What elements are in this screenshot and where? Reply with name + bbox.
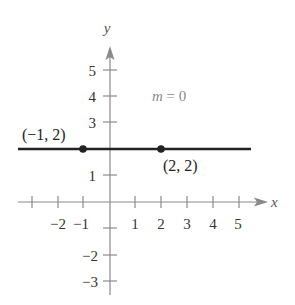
y-tick-label: −2 xyxy=(82,248,98,264)
point-a xyxy=(79,145,87,153)
y-tick-label: 4 xyxy=(89,89,97,105)
x-axis-label: x xyxy=(270,194,278,210)
x-tick-label: 2 xyxy=(157,216,165,232)
y-tick-label: 3 xyxy=(89,115,97,131)
slope-label: m = 0 xyxy=(152,88,186,104)
y-axis: y 5 4 3 1 −2 −3 xyxy=(82,20,117,295)
y-tick-label: 5 xyxy=(89,63,97,79)
x-tick-label: 5 xyxy=(234,216,242,232)
x-tick-label: 1 xyxy=(131,216,139,232)
y-tick-label: −3 xyxy=(82,274,98,290)
x-tick-label: 4 xyxy=(209,216,217,232)
x-tick-label: −1 xyxy=(73,216,89,232)
x-tick-label: −2 xyxy=(50,216,66,232)
x-axis: x −2 −1 1 2 3 4 5 xyxy=(18,194,278,232)
point-a-label: (−1, 2) xyxy=(22,126,66,144)
y-tick-label: 1 xyxy=(89,168,97,184)
x-tick-label: 3 xyxy=(183,216,191,232)
slope-graph: x −2 −1 1 2 3 4 5 y 5 4 3 1 −2 −3 (−1, 2… xyxy=(0,0,295,305)
y-axis-label: y xyxy=(102,20,111,36)
point-b xyxy=(157,145,165,153)
point-b-label: (2, 2) xyxy=(163,157,198,175)
